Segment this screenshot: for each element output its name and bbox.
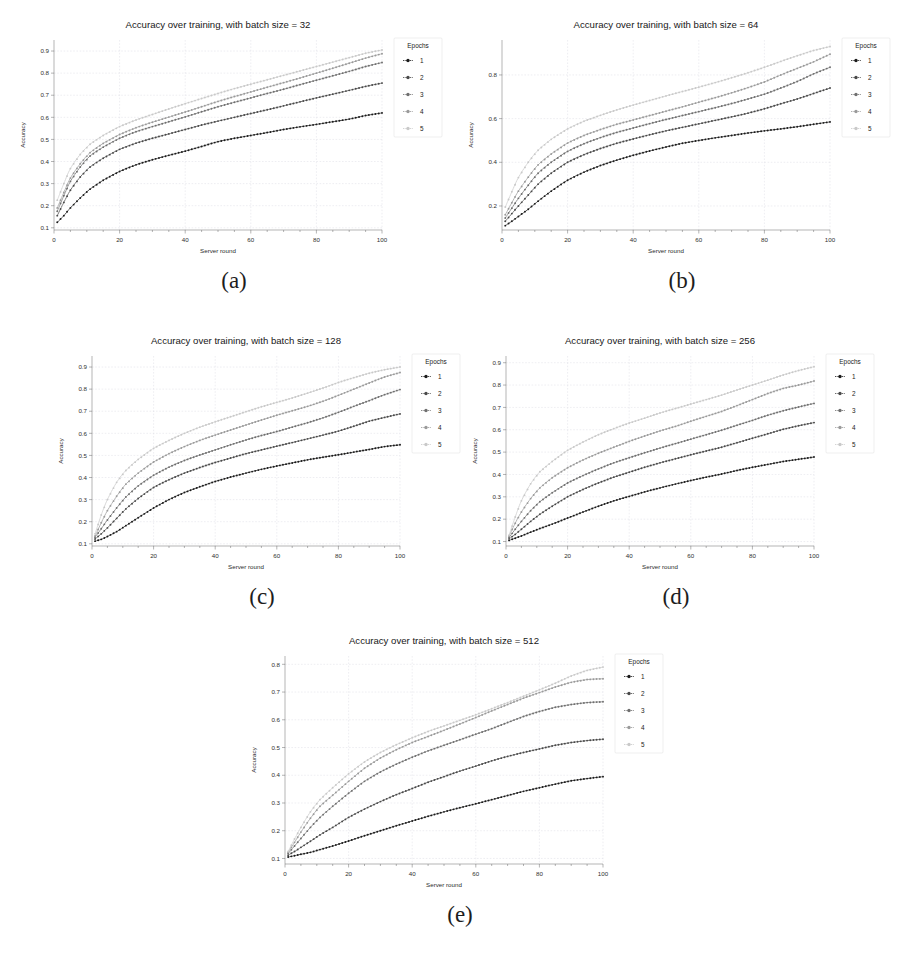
y-tick-label: 0.8 [78, 385, 87, 392]
series-line-epoch-4 [94, 372, 401, 537]
y-tick-label: 0.8 [488, 71, 497, 78]
legend-label-epoch-4: 4 [852, 424, 856, 431]
legend-label-epoch-5: 5 [641, 741, 645, 748]
legend-label-epoch-2: 2 [438, 390, 442, 397]
y-tick-label: 0.3 [492, 493, 501, 500]
y-tick-label: 0.1 [492, 538, 501, 545]
y-tick-label: 0.4 [488, 158, 497, 165]
y-axis-ticks: 0.10.20.30.40.50.60.70.80.9 [40, 47, 54, 231]
series-line-epoch-5 [94, 366, 401, 535]
legend-label-epoch-4: 4 [641, 724, 645, 731]
series-markers-epoch-4 [287, 678, 604, 854]
legend-marker-epoch-1 [624, 675, 634, 678]
series-line-epoch-3 [504, 66, 831, 219]
x-tick-label: 80 [761, 236, 768, 243]
y-tick-label: 0.7 [78, 407, 87, 414]
y-tick-label: 0.9 [492, 359, 501, 366]
series-line-epoch-3 [508, 402, 815, 538]
legend-label-epoch-2: 2 [852, 390, 856, 397]
series-markers-epoch-1 [56, 112, 383, 223]
legend-marker-epoch-3 [851, 93, 861, 96]
series-line-epoch-1 [504, 121, 831, 227]
legend-label-epoch-4: 4 [868, 108, 872, 115]
x-tick-label: 0 [504, 552, 508, 559]
y-tick-label: 0.7 [271, 688, 280, 695]
legend-marker-epoch-2 [421, 392, 431, 395]
x-tick-label: 100 [395, 552, 406, 559]
legend-label-epoch-3: 3 [852, 407, 856, 414]
chart-title: Accuracy over training, with batch size … [126, 19, 311, 30]
series-markers-epoch-2 [508, 422, 815, 540]
y-tick-label: 0.6 [488, 115, 497, 122]
x-tick-label: 20 [564, 236, 571, 243]
x-tick-label: 60 [273, 552, 280, 559]
y-tick-label: 0.2 [488, 202, 497, 209]
x-tick-label: 0 [283, 870, 287, 877]
legend-label-epoch-4: 4 [438, 424, 442, 431]
legend-label-epoch-3: 3 [438, 407, 442, 414]
x-tick-label: 60 [472, 870, 479, 877]
x-tick-label: 20 [345, 870, 352, 877]
y-axis-ticks: 0.10.20.30.40.50.60.70.80.9 [78, 363, 92, 547]
series-markers-epoch-3 [504, 66, 831, 219]
legend-label-epoch-1: 1 [438, 373, 442, 380]
gridlines [502, 40, 830, 230]
series-line-epoch-2 [504, 87, 831, 222]
y-axis-label: Accuracy [250, 746, 257, 772]
subfigure-label-d: (d) [466, 584, 886, 610]
legend-label-epoch-1: 1 [420, 57, 424, 64]
series-line-epoch-1 [56, 112, 383, 223]
series-line-epoch-3 [287, 701, 604, 855]
panel-e: Accuracy over training, with batch size … [245, 630, 675, 898]
x-tick-label: 40 [212, 552, 219, 559]
subfigure-label-b: (b) [462, 268, 902, 294]
legend-marker-epoch-5 [624, 743, 634, 746]
x-tick-label: 100 [377, 236, 388, 243]
y-tick-label: 0.4 [78, 474, 87, 481]
series-line-epoch-5 [56, 49, 383, 201]
series-line-epoch-1 [94, 444, 401, 542]
series-line-epoch-1 [508, 456, 815, 541]
legend-marker-epoch-1 [421, 375, 431, 378]
x-tick-label: 40 [182, 236, 189, 243]
series-line-epoch-4 [287, 678, 604, 854]
chart-title: Accuracy over training, with batch size … [574, 19, 759, 30]
legend-marker-epoch-3 [624, 709, 634, 712]
legend-marker-epoch-4 [403, 110, 413, 113]
y-axis-label: Accuracy [19, 121, 26, 147]
legend-marker-epoch-4 [851, 110, 861, 113]
axes [502, 40, 830, 230]
series-markers-epoch-3 [508, 402, 815, 538]
y-tick-label: 0.5 [271, 744, 280, 751]
x-axis-ticks: 020406080100 [90, 546, 405, 559]
x-tick-label: 60 [695, 236, 702, 243]
y-tick-label: 0.5 [492, 448, 501, 455]
series-line-epoch-4 [508, 380, 815, 537]
x-axis-ticks: 020406080100 [500, 230, 835, 243]
legend-label-epoch-2: 2 [420, 74, 424, 81]
legend-title: Epochs [407, 42, 428, 50]
subfigure-label-c: (c) [52, 584, 472, 610]
y-tick-label: 0.8 [492, 381, 501, 388]
legend-label-epoch-2: 2 [868, 74, 872, 81]
legend-marker-epoch-3 [421, 409, 431, 412]
y-tick-label: 0.7 [492, 404, 501, 411]
y-axis-label: Accuracy [471, 437, 478, 463]
series-markers-epoch-5 [287, 666, 604, 852]
x-axis-ticks: 020406080100 [283, 864, 608, 877]
legend-marker-epoch-2 [835, 392, 845, 395]
chart-title: Accuracy over training, with batch size … [349, 635, 539, 646]
series-markers-epoch-1 [94, 444, 401, 542]
legend-label-epoch-1: 1 [868, 57, 872, 64]
y-tick-label: 0.3 [78, 496, 87, 503]
series-markers-epoch-2 [56, 82, 383, 216]
series-markers-epoch-1 [287, 776, 604, 858]
legend-marker-epoch-4 [624, 726, 634, 729]
legend: Epochs12345 [826, 354, 874, 453]
subfigure-label-e: (e) [245, 902, 675, 928]
legend-marker-epoch-1 [403, 59, 413, 62]
chart-e: Accuracy over training, with batch size … [245, 630, 675, 898]
y-tick-label: 0.1 [271, 855, 280, 862]
y-tick-label: 0.1 [78, 540, 87, 547]
x-tick-label: 60 [247, 236, 254, 243]
